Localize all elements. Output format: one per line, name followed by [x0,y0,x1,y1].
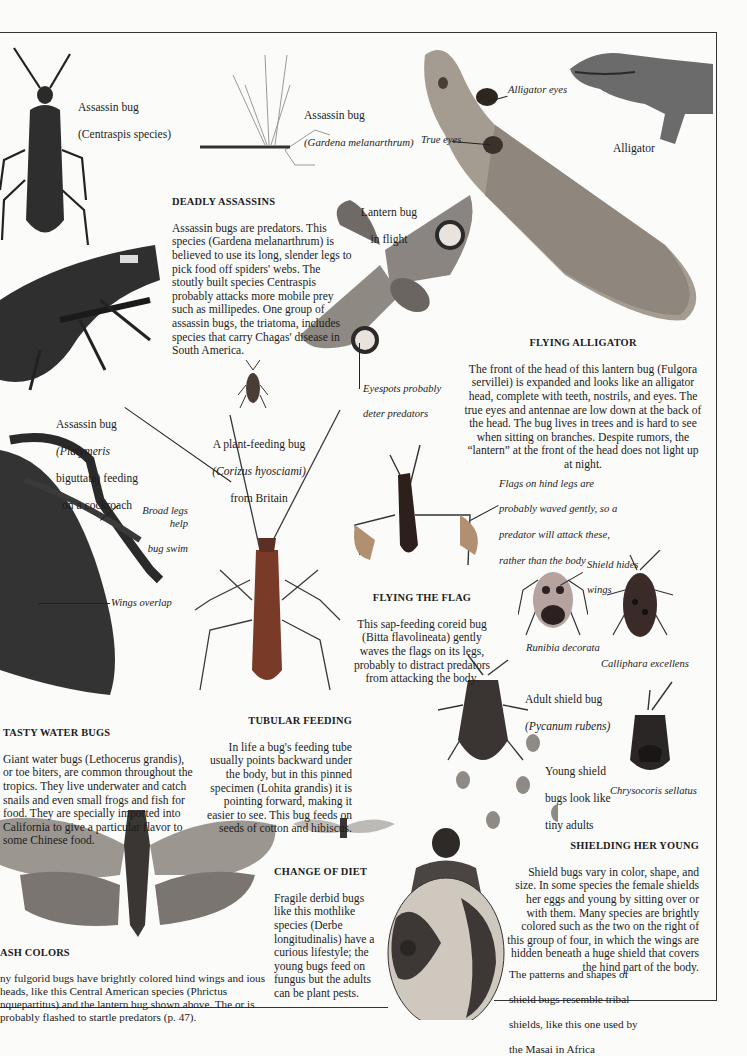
heading-deadly-assassins: DEADLY ASSASSINS [172,195,352,209]
caption-eyespots: Eyespots probably deter predators [363,370,441,421]
alligator-illustration [565,44,715,154]
right-rule [716,32,717,1000]
caption-broad-legs: Broad legs help bug swim [122,492,188,556]
platymeris-feeding-on-cockroach-photo [0,240,160,400]
section-tubular-feeding: TUBULAR FEEDING In life a bug's feeding … [200,700,352,836]
top-rule [0,32,717,33]
runibia-shield-bug-photo [518,560,588,640]
heading-flying-alligator: FLYING ALLIGATOR [463,336,703,350]
body-flying-alligator: The front of the head of this lantern bu… [465,363,702,471]
body-flying-the-flag: This sap-feeding coreid bug (Bitta flavo… [354,618,490,685]
caption-true-eyes: True eyes [421,134,461,147]
caption-gardena: Assassin bug (Gardena melanarthrum) [304,96,414,150]
section-flash-colors: ASH COLORS ny fulgorid bugs have brightl… [0,934,272,1024]
caption-shield-hides-wings: Shield hides wings [587,546,639,597]
section-tasty-water-bugs: TASTY WATER BUGS Giant water bugs (Letho… [3,712,193,848]
caption-chrysocoris: Chrysocoris sellatus [610,785,697,798]
heading-shielding-her-young: SHIELDING HER YOUNG [506,839,699,853]
caption-masai-shield: The patterns and shapes of shield bugs r… [509,955,638,1056]
heading-flying-the-flag: FLYING THE FLAG [352,591,492,605]
caption-centraspis: Assassin bug (Centraspis species) [78,88,171,142]
body-change-of-diet: Fragile derbid bugs like this mothlike s… [274,892,374,1000]
body-flash-colors: ny fulgorid bugs have brightly colored h… [0,972,265,1022]
caption-pycanum: Adult shield bug (Pycanum rubens) [525,680,610,734]
centraspis-assassin-bug-photo [0,40,90,250]
caption-wings-overlap: Wings overlap [111,597,172,610]
caption-runibia: Runibia decorata [526,642,600,655]
body-deadly-assassins: Assassin bugs are predators. This specie… [172,222,352,357]
body-tubular-feeding: In life a bug's feeding tube usually poi… [207,741,352,836]
chrysocoris-shield-bug-photo [620,680,680,780]
section-shielding-her-young: SHIELDING HER YOUNG Shield bugs vary in … [506,825,699,975]
caption-young-shield-bugs: Young shield bugs look like tiny adults [545,752,611,832]
caption-alligator-eyes: Alligator eyes [508,84,567,97]
heading-tubular-feeding: TUBULAR FEEDING [200,714,352,728]
section-deadly-assassins: DEADLY ASSASSINS Assassin bugs are preda… [172,181,352,358]
caption-lantern-bug-flight: Lantern bug in flight [358,193,420,247]
section-flying-alligator: FLYING ALLIGATOR The front of the head o… [463,322,703,472]
caption-calliphara: Calliphara excellens [601,658,689,671]
heading-change-of-diet: CHANGE OF DIET [274,865,384,879]
body-tasty-water-bugs: Giant water bugs (Lethocerus grandis), o… [3,753,193,848]
caption-centraspis-species: (Centraspis species) [78,128,171,141]
masai-shield-photo [386,828,506,1020]
section-flying-the-flag: FLYING THE FLAG This sap-feeding coreid … [352,577,492,686]
caption-corizus: A plant-feeding bug (Corizus hyosciami) … [204,425,314,505]
leader-wings-overlap [38,603,110,604]
section-change-of-diet: CHANGE OF DIET Fragile derbid bugs like … [274,851,384,1001]
leader-eyespots [359,343,360,389]
caption-alligator: Alligator [613,142,655,155]
heading-flash-colors: ASH COLORS [0,947,272,960]
young-shield-bugs-photo [448,725,558,835]
heading-tasty-water-bugs: TASTY WATER BUGS [3,726,193,740]
